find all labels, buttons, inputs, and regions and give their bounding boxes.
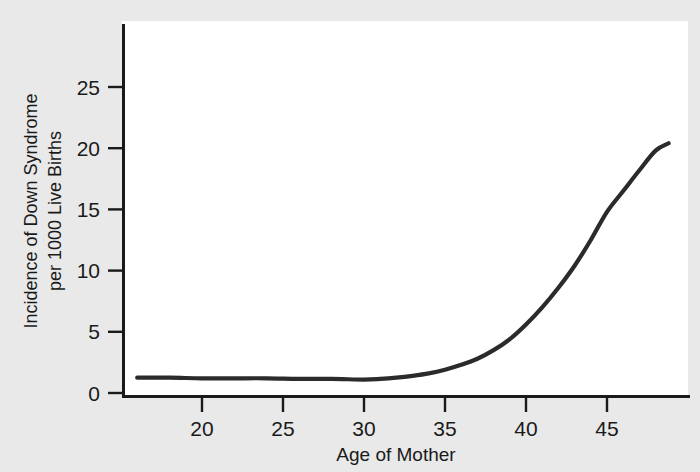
x-axis-tick-label: 20 [190, 417, 213, 440]
x-axis-tick-label: 35 [433, 417, 456, 440]
x-axis-tick-label: 40 [514, 417, 537, 440]
chart-figure: 0510152025 202530354045 Age of Mother In… [0, 0, 700, 472]
x-axis-tick-label: 45 [595, 417, 618, 440]
y-axis-title-line2: per 1000 Live Births [45, 131, 65, 291]
y-axis-tick-label: 0 [88, 382, 100, 405]
down-syndrome-incidence-chart: 0510152025 202530354045 Age of Mother In… [0, 0, 700, 472]
y-axis-tick-label: 5 [88, 320, 100, 343]
y-axis-tick-label: 25 [77, 76, 100, 99]
y-axis-tick-label: 15 [77, 198, 100, 221]
plot-area-background [122, 21, 688, 396]
y-axis-title-line1: Incidence of Down Syndrome [21, 93, 41, 328]
y-axis-tick-label: 10 [77, 259, 100, 282]
y-axis-tick-label: 20 [77, 137, 100, 160]
x-axis-tick-label: 25 [271, 417, 294, 440]
x-axis-title: Age of Mother [336, 444, 456, 465]
x-axis-tick-label: 30 [352, 417, 375, 440]
